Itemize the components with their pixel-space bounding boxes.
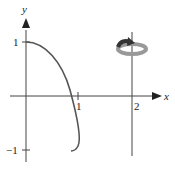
x-tick-label-1: 1 <box>76 101 82 112</box>
x-axis-label: x <box>164 91 169 102</box>
y-axis-label: y <box>22 4 27 15</box>
y-tick-label-neg1: −1 <box>6 145 18 156</box>
revolution-diagram: y x 1 −1 1 2 <box>0 0 175 172</box>
y-tick-label-1: 1 <box>13 37 19 48</box>
x-axis-arrow-icon <box>152 92 162 100</box>
x-tick-label-2: 2 <box>134 101 140 112</box>
diagram-canvas <box>0 0 175 172</box>
y-axis-arrow-icon <box>22 18 30 28</box>
